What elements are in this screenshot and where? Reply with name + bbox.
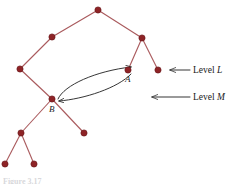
level-arrows-group — [152, 70, 190, 97]
curved-arrows-group — [58, 67, 131, 101]
tree-node-b — [49, 96, 55, 102]
tree-node — [18, 130, 24, 136]
tree-node — [2, 161, 8, 167]
tree-node — [95, 7, 101, 13]
tree-edge — [52, 10, 98, 37]
level-l-label-letter: L — [217, 65, 222, 75]
tree-node — [155, 67, 161, 73]
tree-edge — [21, 133, 34, 164]
tree-node — [17, 66, 23, 72]
tree-node-a — [125, 67, 131, 73]
tree-node — [49, 34, 55, 40]
tree-node — [139, 35, 145, 41]
level-l-label-prefix: Level — [193, 65, 217, 75]
tree-node — [81, 130, 87, 136]
level-m-label-prefix: Level — [193, 92, 217, 102]
tree-edge — [52, 99, 84, 133]
curved-arrow-a-to-b — [59, 74, 131, 101]
level-m-label-letter: M — [217, 92, 225, 102]
figure-container: AB Level LLevel M Figure 3.17 — [0, 0, 232, 184]
tree-edge — [5, 133, 21, 164]
tree-edges-group — [5, 10, 158, 164]
tree-node — [31, 161, 37, 167]
tree-edge — [20, 37, 52, 69]
tree-edge — [21, 99, 52, 133]
tree-edge — [142, 38, 158, 70]
node-label-b: B — [49, 105, 55, 114]
level-m-label: Level M — [193, 93, 225, 103]
tree-edge — [128, 38, 142, 70]
node-label-a: A — [125, 75, 131, 84]
figure-caption: Figure 3.17 — [3, 178, 42, 184]
level-l-label: Level L — [193, 66, 222, 76]
tree-edge — [98, 10, 142, 38]
tree-edge — [20, 69, 52, 99]
